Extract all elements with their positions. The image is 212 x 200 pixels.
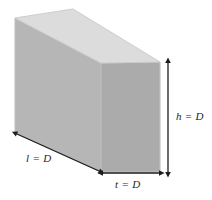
block-shape [15,9,160,172]
height-dimension-label: h = D [176,110,204,122]
figure-container: l = D t = D h = D [0,0,212,200]
block-right-end-face [101,62,160,172]
thickness-dimension-label: t = D [115,178,140,190]
length-dimension-label: l = D [26,152,51,164]
block-diagram-svg [0,0,212,200]
